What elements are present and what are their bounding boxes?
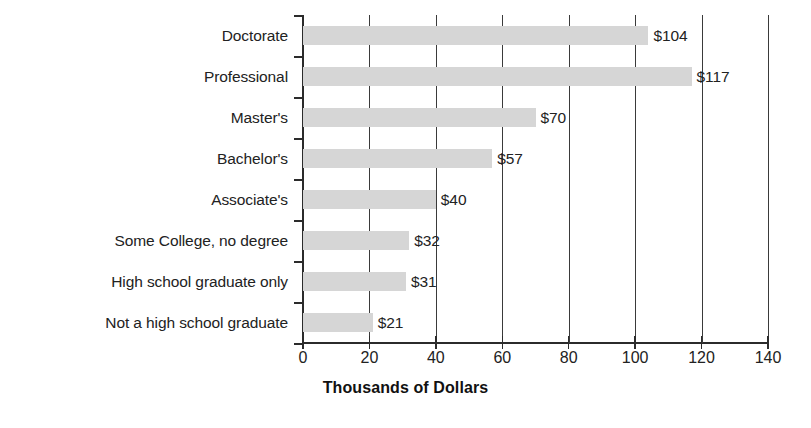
gridline bbox=[768, 15, 769, 343]
y-axis-tick bbox=[294, 138, 303, 140]
y-axis-tick bbox=[294, 179, 303, 181]
category-label: Master's bbox=[0, 110, 296, 126]
bar-value-label: $104 bbox=[648, 26, 687, 45]
x-axis-tick-label: 100 bbox=[622, 350, 649, 366]
category-label: Not a high school graduate bbox=[0, 315, 296, 331]
x-axis-tick bbox=[701, 336, 703, 349]
x-axis-tick-label: 120 bbox=[688, 350, 715, 366]
x-axis-tick bbox=[302, 336, 304, 349]
bar-value-label: $117 bbox=[692, 67, 730, 86]
category-label: Professional bbox=[0, 69, 296, 85]
bar bbox=[303, 190, 436, 209]
x-axis-tick bbox=[634, 336, 636, 349]
x-axis-title: Thousands of Dollars bbox=[0, 379, 811, 397]
x-axis-tick-label: 0 bbox=[299, 350, 308, 366]
gridline bbox=[436, 15, 437, 343]
bar bbox=[303, 108, 536, 127]
bar-value-label: $70 bbox=[536, 108, 567, 127]
plot-area: $104$117$70$57$40$32$31$21 bbox=[303, 15, 768, 343]
gridline bbox=[369, 15, 370, 343]
bar bbox=[303, 272, 406, 291]
bar bbox=[303, 26, 648, 45]
x-axis-tick bbox=[369, 336, 371, 349]
y-axis-tick bbox=[294, 97, 303, 99]
x-axis-tick bbox=[502, 336, 504, 349]
bar-value-label: $32 bbox=[409, 231, 440, 250]
bar bbox=[303, 149, 492, 168]
x-axis-tick-label: 80 bbox=[560, 350, 578, 366]
gridline bbox=[635, 15, 636, 343]
category-label: Associate's bbox=[0, 192, 296, 208]
x-axis-tick-label: 40 bbox=[427, 350, 445, 366]
x-axis-line bbox=[302, 342, 768, 344]
y-axis-tick bbox=[294, 15, 303, 17]
gridline bbox=[502, 15, 503, 343]
x-axis-tick-label: 140 bbox=[755, 350, 782, 366]
x-axis-tick-label: 60 bbox=[493, 350, 511, 366]
category-label: Bachelor's bbox=[0, 151, 296, 167]
bar-value-label: $57 bbox=[492, 149, 523, 168]
y-axis-tick bbox=[294, 261, 303, 263]
x-axis-tick bbox=[568, 336, 570, 349]
bar-value-label: $40 bbox=[436, 190, 467, 209]
x-axis-tick-label: 20 bbox=[361, 350, 379, 366]
y-axis-tick bbox=[294, 56, 303, 58]
bar-value-label: $31 bbox=[406, 272, 437, 291]
category-axis-labels: Doctorate Professional Master's Bachelor… bbox=[0, 15, 296, 343]
bar-value-label: $21 bbox=[373, 313, 404, 332]
category-label: Some College, no degree bbox=[0, 233, 296, 249]
x-axis-tick bbox=[767, 336, 769, 349]
category-label: High school graduate only bbox=[0, 274, 296, 290]
category-label: Doctorate bbox=[0, 28, 296, 44]
bar bbox=[303, 67, 692, 86]
gridline bbox=[702, 15, 703, 343]
bar bbox=[303, 313, 373, 332]
gridline bbox=[569, 15, 570, 343]
bar-chart: Doctorate Professional Master's Bachelor… bbox=[0, 0, 811, 428]
y-axis-tick bbox=[294, 220, 303, 222]
y-axis-tick bbox=[294, 302, 303, 304]
bar bbox=[303, 231, 409, 250]
x-axis-tick bbox=[435, 336, 437, 349]
